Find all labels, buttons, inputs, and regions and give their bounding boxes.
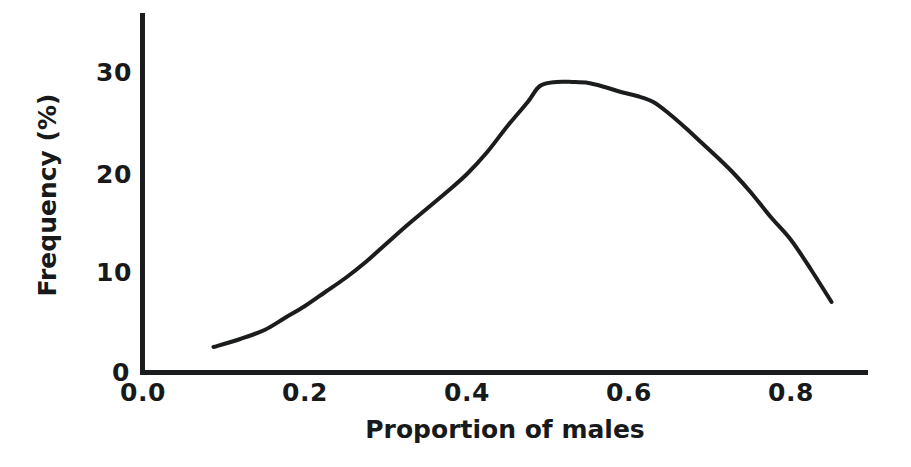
y-tick-label-0: 0 xyxy=(96,360,130,385)
x-tick-label-2: 0.4 xyxy=(444,380,490,405)
x-axis-title: Proportion of males xyxy=(365,417,645,442)
y-tick-label-30: 30 xyxy=(96,60,130,85)
frequency-distribution-curve xyxy=(213,82,831,347)
x-tick-label-4: 0.8 xyxy=(768,380,814,405)
x-tick-label-3: 0.6 xyxy=(606,380,652,405)
y-tick-label-20: 20 xyxy=(96,162,130,187)
x-tick-label-1: 0.2 xyxy=(282,380,328,405)
y-tick-label-10: 10 xyxy=(96,260,130,285)
chart-figure: 0.0 0.2 0.4 0.6 0.8 0 10 20 30 Proportio… xyxy=(0,0,911,467)
y-axis-title: Frequency (%) xyxy=(35,94,60,297)
